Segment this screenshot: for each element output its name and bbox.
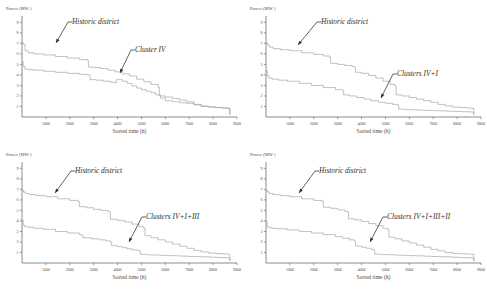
x-tick-label: 2000 — [310, 267, 318, 272]
series-line-clusters — [22, 61, 230, 115]
y-axis-title: Power (MW ) — [6, 6, 32, 11]
x-tick-label: 8000 — [209, 267, 217, 272]
annotation-arrowhead — [370, 237, 373, 242]
y-tick-label: 2 — [261, 93, 263, 98]
chart-panel-4: Power (MW )12345678910002000300040005000… — [244, 146, 487, 291]
y-tick-label: 8 — [17, 30, 19, 35]
y-axis-title: Power (MW ) — [250, 6, 276, 11]
y-tick-label: 1 — [261, 104, 263, 109]
x-tick-label: 7000 — [185, 121, 193, 126]
y-tick-label: 8 — [17, 176, 19, 181]
x-tick-label: 7000 — [429, 121, 437, 126]
y-tick-label: 2 — [261, 239, 263, 244]
annotation-historic-district: Historic district — [71, 17, 120, 26]
x-tick-label: 8000 — [453, 121, 461, 126]
x-tick-label: 4000 — [114, 267, 122, 272]
x-tick-label: 1000 — [42, 121, 50, 126]
annotation-arrowhead — [299, 189, 303, 193]
y-tick-label: 1 — [17, 104, 19, 109]
series-line-clusters — [266, 221, 474, 260]
annotation-leader-line — [381, 74, 397, 98]
y-axis-title: Power (MW ) — [250, 152, 276, 157]
chart-panel-3: Power (MW )12345678910002000300040005000… — [0, 146, 243, 291]
y-tick-label: 5 — [261, 208, 263, 213]
annotation-arrowhead — [56, 39, 60, 43]
x-tick-label: 6000 — [161, 121, 169, 126]
x-tick-label: 5000 — [137, 121, 145, 126]
y-tick-label: 4 — [261, 72, 263, 77]
x-tick-label: 6000 — [405, 267, 413, 272]
load-duration-chart: Power (MW )12345678910002000300040005000… — [244, 146, 487, 291]
x-tick-label: 5000 — [137, 267, 145, 272]
series-line-historic-district — [22, 42, 230, 115]
x-tick-label: 8000 — [209, 121, 217, 126]
y-tick-label: 7 — [17, 41, 19, 46]
y-tick-label: 9 — [17, 166, 19, 171]
annotation-leader-line — [298, 22, 321, 45]
x-tick-label: 4000 — [114, 121, 122, 126]
annotation-arrowhead — [120, 68, 123, 73]
y-tick-label: 9 — [17, 20, 19, 25]
x-tick-label: 6000 — [405, 121, 413, 126]
annotation-clusters: Clusters IV+I+III — [146, 212, 200, 221]
series-line-historic-district — [22, 190, 230, 260]
y-tick-label: 4 — [17, 218, 19, 223]
series-line-historic-district — [266, 190, 474, 260]
x-tick-label: 7000 — [429, 267, 437, 272]
x-tick-label: 9000 — [233, 121, 241, 126]
x-tick-label: 3000 — [90, 121, 98, 126]
annotation-clusters: Clusters IV+I — [397, 69, 438, 78]
annotation-clusters: Cluster IV — [135, 45, 167, 54]
y-tick-label: 4 — [261, 218, 263, 223]
x-tick-label: 2000 — [66, 267, 74, 272]
x-tick-label: 7000 — [185, 267, 193, 272]
y-tick-label: 8 — [261, 176, 263, 181]
annotation-leader-line — [299, 171, 319, 193]
annotation-historic-district: Historic district — [74, 166, 123, 175]
x-tick-label: 5000 — [381, 267, 389, 272]
y-tick-label: 1 — [17, 250, 19, 255]
x-tick-label: 6000 — [161, 267, 169, 272]
y-tick-label: 1 — [261, 250, 263, 255]
x-tick-label: 3000 — [334, 267, 342, 272]
y-tick-label: 6 — [17, 197, 19, 202]
x-tick-label: 4000 — [358, 267, 366, 272]
y-tick-label: 4 — [17, 72, 19, 77]
x-tick-label: 8000 — [453, 267, 461, 272]
x-axis-title: Sorted time (h) — [357, 128, 391, 135]
x-tick-label: 1000 — [42, 267, 50, 272]
annotation-historic-district: Historic district — [320, 17, 369, 26]
x-tick-label: 3000 — [334, 121, 342, 126]
annotation-leader-line — [370, 217, 387, 242]
annotation-arrowhead — [55, 189, 59, 193]
x-tick-label: 3000 — [90, 267, 98, 272]
y-tick-label: 5 — [261, 62, 263, 67]
y-tick-label: 2 — [17, 239, 19, 244]
y-tick-label: 9 — [261, 166, 263, 171]
y-tick-label: 7 — [261, 187, 263, 192]
y-axis-title: Power (MW ) — [6, 152, 32, 157]
y-tick-label: 6 — [17, 51, 19, 56]
y-tick-label: 9 — [261, 20, 263, 25]
x-tick-label: 2000 — [66, 121, 74, 126]
x-tick-label: 9000 — [477, 267, 485, 272]
annotation-historic-district: Historic district — [318, 166, 367, 175]
load-duration-chart: Power (MW )12345678910002000300040005000… — [244, 0, 487, 145]
x-tick-label: 1000 — [286, 267, 294, 272]
load-duration-chart: Power (MW )12345678910002000300040005000… — [0, 146, 243, 291]
series-line-historic-district — [266, 43, 474, 115]
annotation-arrowhead — [129, 237, 132, 242]
y-tick-label: 2 — [17, 93, 19, 98]
annotation-arrowhead — [381, 93, 384, 98]
x-tick-label: 1000 — [286, 121, 294, 126]
x-tick-label: 9000 — [477, 121, 485, 126]
chart-panel-2: Power (MW )12345678910002000300040005000… — [244, 0, 487, 145]
y-tick-label: 3 — [17, 229, 19, 234]
x-axis-title: Sorted time (h) — [113, 274, 147, 281]
x-axis-title: Sorted time (h) — [357, 274, 391, 281]
x-axis-title: Sorted time (h) — [113, 128, 147, 135]
annotation-leader-line — [129, 217, 146, 242]
annotation-leader-line — [55, 171, 75, 193]
four-panel-load-duration-figure: Power (MW )12345678910002000300040005000… — [0, 0, 487, 291]
y-tick-label: 7 — [17, 187, 19, 192]
